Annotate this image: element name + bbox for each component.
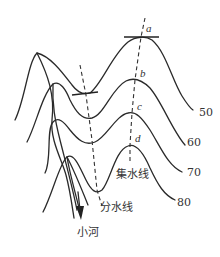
ridge-line xyxy=(80,65,102,206)
elevation-label-80: 80 xyxy=(177,196,191,209)
point-label-d: d xyxy=(135,132,141,144)
elevation-label-50: 50 xyxy=(199,106,213,119)
valley-line-label: 集水线 xyxy=(116,167,149,181)
elevation-label-70: 70 xyxy=(187,166,201,179)
ridge-line-label: 分水线 xyxy=(100,200,133,214)
point-label-b: b xyxy=(140,67,146,79)
river-branch-main xyxy=(37,53,74,218)
point-label-a: a xyxy=(146,22,152,34)
contour-diagram: a b c d 50 60 70 80 集水线 分水线 小河 xyxy=(0,0,220,257)
tangent-mark-saddle xyxy=(72,92,98,95)
point-label-c: c xyxy=(137,100,142,112)
elevation-label-60: 60 xyxy=(187,136,201,149)
river-label: 小河 xyxy=(77,226,99,239)
